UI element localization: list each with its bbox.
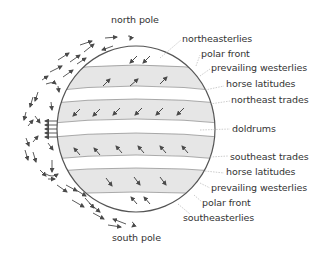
- label-polar-front-south: polar front: [202, 198, 251, 208]
- label-prevailing-westerlies-south: prevailing westerlies: [211, 183, 307, 193]
- label-southeasterlies: southeasterlies: [183, 213, 254, 223]
- south-pole-label: south pole: [112, 233, 161, 243]
- label-southeast-trades: southeast trades: [230, 152, 309, 162]
- label-polar-front-north: polar front: [201, 49, 250, 59]
- label-northeasterlies: northeasterlies: [182, 34, 252, 44]
- label-northeast-trades: northeast trades: [231, 95, 309, 105]
- label-horse-latitudes-south: horse latitudes: [226, 167, 295, 177]
- wind-circulation-diagram: north pole south pole northeasterlies po…: [0, 0, 325, 261]
- globe-diagram-svg: [0, 0, 325, 261]
- label-horse-latitudes-north: horse latitudes: [226, 79, 295, 89]
- north-pole-label: north pole: [111, 15, 159, 25]
- label-prevailing-westerlies-north: prevailing westerlies: [211, 63, 307, 73]
- label-doldrums: doldrums: [232, 124, 276, 134]
